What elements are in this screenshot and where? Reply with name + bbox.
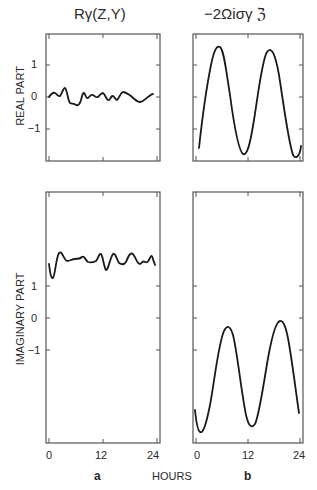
frame-a-real	[46, 34, 160, 161]
curve-b-imag	[195, 321, 299, 432]
figure-plots	[0, 0, 317, 490]
frame-a-imag	[46, 192, 160, 443]
frame-b-real	[193, 34, 303, 161]
curve-a-real	[49, 88, 153, 105]
curve-b-real	[199, 47, 301, 158]
curve-a-imag	[49, 252, 155, 278]
